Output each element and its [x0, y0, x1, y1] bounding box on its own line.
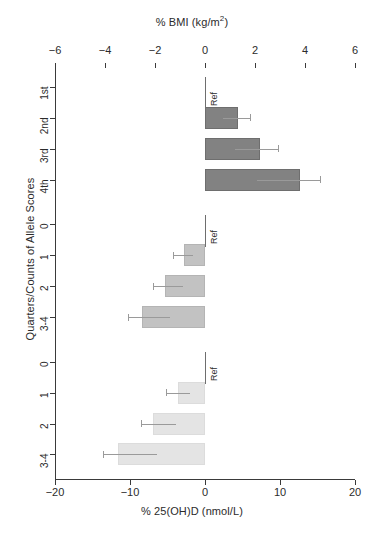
- y-axis-tick: [50, 118, 55, 119]
- y-axis-tick: [50, 149, 55, 150]
- y-axis-tick: [50, 286, 55, 287]
- y-axis-tick: [50, 180, 55, 181]
- error-bar-line: [223, 118, 250, 119]
- error-bar-cap: [153, 283, 154, 290]
- y-axis-tick: [50, 317, 55, 318]
- top-axis-title-suffix: ): [224, 16, 228, 28]
- error-bar-line: [173, 255, 194, 256]
- error-bar-cap: [141, 420, 142, 427]
- axis-tick-label-top: 4: [285, 44, 325, 56]
- axis-tick-label-bottom: −10: [110, 486, 150, 498]
- axis-tick-label-bottom: 20: [335, 486, 375, 498]
- y-axis-tick: [50, 255, 55, 256]
- axis-tick-label-top: 2: [235, 44, 275, 56]
- axis-tick-bottom: [205, 480, 206, 485]
- bottom-axis-title: % 25(OH)D (nmol/L): [0, 505, 384, 517]
- y-axis-tick: [50, 424, 55, 425]
- top-axis-title-text: % BMI (kg/m: [156, 16, 220, 28]
- axis-tick-bottom: [355, 480, 356, 485]
- y-axis-tick-label: 3-4: [39, 454, 50, 494]
- axis-tick-top: [255, 63, 256, 68]
- error-bar-cap: [250, 114, 251, 121]
- y-axis-tick: [50, 454, 55, 455]
- error-bar-cap: [173, 252, 174, 259]
- axis-tick-bottom: [280, 480, 281, 485]
- axis-tick-label-top: −4: [85, 44, 125, 56]
- axis-tick-top: [155, 63, 156, 68]
- error-bar-line: [128, 317, 171, 318]
- reference-line: [205, 77, 206, 109]
- error-bar-cap: [278, 145, 279, 152]
- axis-tick-top: [305, 63, 306, 68]
- y-axis-tick: [50, 87, 55, 88]
- plot-area: [55, 68, 355, 480]
- y-axis-tick: [50, 393, 55, 394]
- error-bar-cap: [166, 389, 167, 396]
- axis-tick-bottom: [130, 480, 131, 485]
- figure-canvas: % BMI (kg/m2) % 25(OH)D (nmol/L) Quarter…: [0, 0, 384, 541]
- error-bar-line: [153, 286, 184, 287]
- axis-tick-top: [205, 63, 206, 68]
- reference-label: Ref: [209, 92, 219, 106]
- axis-tick-label-top: −6: [35, 44, 75, 56]
- y-axis-tick: [50, 224, 55, 225]
- y-axis-tick: [50, 362, 55, 363]
- reference-line: [205, 215, 206, 247]
- y-axis-title: Quarters/Counts of Allele Scores: [24, 159, 36, 359]
- axis-tick-label-top: 0: [185, 44, 225, 56]
- axis-tick-top: [55, 63, 56, 68]
- axis-tick-bottom: [55, 480, 56, 485]
- top-axis-title: % BMI (kg/m2): [0, 14, 384, 28]
- y-axis-tick-label: 3-4: [39, 317, 50, 357]
- axis-tick-label-bottom: 0: [185, 486, 225, 498]
- axis-tick-label-top: 6: [335, 44, 375, 56]
- error-bar-line: [166, 393, 190, 394]
- axis-tick-label-bottom: 10: [260, 486, 300, 498]
- axis-tick-top: [355, 63, 356, 68]
- error-bar-line: [141, 424, 177, 425]
- axis-tick-top: [105, 63, 106, 68]
- error-bar-cap: [128, 314, 129, 321]
- error-bar-cap: [320, 176, 321, 183]
- error-bar-line: [103, 454, 157, 455]
- reference-label: Ref: [209, 230, 219, 244]
- reference-label: Ref: [209, 367, 219, 381]
- reference-line: [205, 352, 206, 384]
- error-bar-cap: [103, 451, 104, 458]
- error-bar-line: [257, 180, 320, 181]
- y-axis-tick-label: 4th: [39, 179, 50, 219]
- axis-tick-label-top: −2: [135, 44, 175, 56]
- error-bar-line: [235, 149, 277, 150]
